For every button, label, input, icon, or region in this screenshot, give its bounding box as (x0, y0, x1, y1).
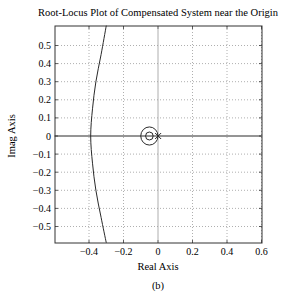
y-tick-labels: 0.50.40.30.20.10−0.1−0.2−0.3−0.4−0.5 (33, 40, 51, 232)
x-tick-labels: −0.4−0.200.20.40.6 (80, 246, 268, 257)
y-tick-label: 0.5 (39, 40, 52, 51)
y-tick-label: 0.1 (39, 112, 52, 123)
plot-frame (55, 26, 262, 243)
y-tick-label: 0 (46, 131, 51, 142)
x-axis-label: Real Axis (137, 261, 178, 272)
root-locus-chart: Root-Locus Plot of Compensated System ne… (0, 0, 284, 298)
figure-caption: (b) (152, 280, 165, 292)
x-tick-label: 0.2 (186, 246, 199, 257)
x-tick-label: −0.2 (114, 246, 132, 257)
root-locus-branch (91, 26, 107, 243)
x-tick-label: −0.4 (80, 246, 98, 257)
y-tick-label: −0.4 (33, 203, 51, 214)
grid-lines (55, 26, 262, 243)
y-tick-label: 0.4 (39, 58, 52, 69)
chart-title: Root-Locus Plot of Compensated System ne… (38, 7, 279, 18)
x-tick-label: 0.4 (221, 246, 234, 257)
x-tick-label: 0.6 (255, 246, 268, 257)
y-axis-label: Imag Axis (6, 114, 17, 157)
y-tick-label: 0.2 (39, 94, 52, 105)
y-tick-label: −0.3 (33, 185, 51, 196)
y-tick-label: 0.3 (39, 76, 52, 87)
x-tick-label: 0 (156, 246, 161, 257)
y-tick-label: −0.5 (33, 221, 51, 232)
y-tick-label: −0.1 (33, 149, 51, 160)
y-tick-label: −0.2 (33, 167, 51, 178)
